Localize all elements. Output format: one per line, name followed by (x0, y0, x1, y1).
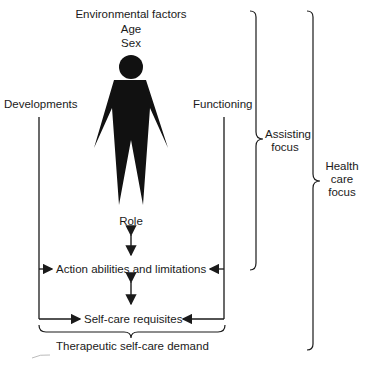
environmental-factors-label: Environmental factors (60, 8, 202, 21)
self-care-requisites-node: Self-care requisites (84, 313, 180, 326)
functioning-label: Functioning (193, 98, 252, 111)
assisting-focus-label: Assisting focus (265, 128, 305, 154)
age-label: Age (60, 23, 202, 36)
diagram-lines (0, 0, 366, 366)
developments-label: Developments (4, 98, 78, 111)
health-care-focus-label: Health care focus (322, 160, 362, 199)
person-icon (94, 55, 168, 205)
role-node: Role (100, 215, 162, 228)
therapeutic-demand-label: Therapeutic self-care demand (56, 340, 206, 353)
sex-label: Sex (60, 37, 202, 50)
action-abilities-node: Action abilities and limitations (56, 263, 206, 276)
